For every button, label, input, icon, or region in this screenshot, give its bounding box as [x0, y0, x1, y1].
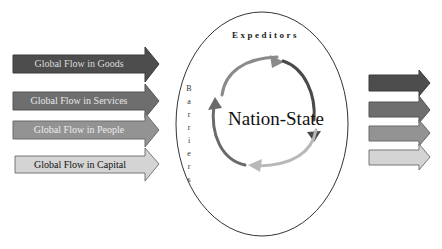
outflow-arrow-2	[369, 96, 430, 123]
inflow-label-capital: Global Flow in Capital	[15, 159, 145, 170]
inflow-label-people: Global Flow in People	[13, 124, 145, 135]
barriers-label: B a r r i e r s	[184, 82, 194, 186]
expeditors-label: Expeditors	[232, 30, 299, 40]
outflow-arrow-3	[369, 120, 430, 146]
outflow-arrow-4	[369, 144, 430, 170]
nation-state-label: Nation-State	[228, 108, 324, 130]
inflow-label-services: Global Flow in Services	[13, 95, 145, 106]
inflow-label-goods: Global Flow in Goods	[13, 58, 145, 69]
outflow-arrow-1	[369, 70, 430, 96]
